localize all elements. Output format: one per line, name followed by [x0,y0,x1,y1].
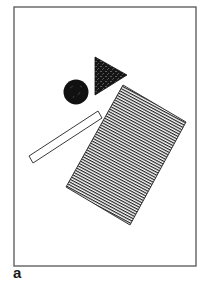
panel-label: a [13,265,21,281]
figure-canvas [0,0,216,284]
black-circle-shape [64,80,89,105]
